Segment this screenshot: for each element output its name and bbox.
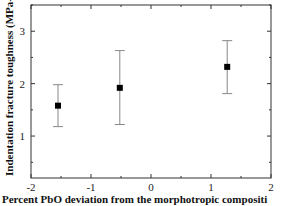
x-tick-label: -1 — [86, 181, 95, 193]
chart: -2-1012 123 Percent PbO deviation from t… — [0, 0, 287, 206]
x-tick-label: 0 — [148, 181, 154, 193]
data-point-marker — [55, 103, 61, 109]
x-axis-ticks: -2-1012 — [26, 5, 273, 193]
data-point-marker — [117, 85, 123, 91]
y-axis-ticks: 123 — [20, 5, 272, 162]
data-markers — [55, 64, 230, 109]
x-tick-label: 2 — [268, 181, 274, 193]
y-tick-label: 2 — [20, 78, 26, 90]
y-axis-title-main: Indentation fracture toughness (MPa-m — [3, 0, 16, 176]
x-tick-label: -2 — [26, 181, 35, 193]
x-axis-title: Percent PbO deviation from the morphotro… — [2, 193, 267, 205]
x-tick-label: 1 — [208, 181, 214, 193]
data-point-marker — [224, 64, 230, 70]
y-tick-label: 3 — [20, 25, 26, 37]
error-bars — [53, 41, 232, 127]
plot-frame — [31, 5, 271, 178]
y-axis-title: Indentation fracture toughness (MPa-m1/2… — [2, 0, 16, 176]
y-tick-label: 1 — [20, 130, 26, 142]
